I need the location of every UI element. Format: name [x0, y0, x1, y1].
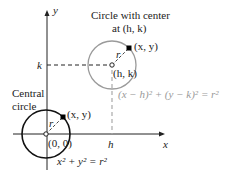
- y-axis-label: y: [53, 4, 58, 16]
- central-point-label: (x, y): [67, 108, 91, 120]
- shifted-radius: [112, 48, 129, 65]
- circle-diagram: y x k h Circle with center at (h, k) (x,…: [0, 0, 228, 178]
- shifted-title-line1: Circle with center: [91, 9, 170, 21]
- shifted-point-marker: [127, 46, 132, 51]
- h-tick-label: h: [108, 138, 114, 150]
- central-label-line2: circle: [12, 100, 36, 112]
- central-point-marker: [61, 115, 66, 120]
- central-equation: x² + y² = r²: [57, 155, 107, 167]
- y-axis-arrow-icon: [45, 10, 50, 16]
- x-axis-label: x: [163, 138, 168, 150]
- shifted-radius-label: r: [116, 48, 120, 60]
- k-tick-label: k: [37, 59, 42, 71]
- shifted-point-label: (x, y): [134, 40, 158, 52]
- central-center-label: (0, 0): [48, 137, 72, 149]
- x-axis-arrow-icon: [159, 132, 165, 137]
- shifted-title-line2: at (h, k): [112, 22, 147, 34]
- central-center-marker: [44, 132, 48, 136]
- shifted-center-label: (h, k): [113, 67, 137, 79]
- central-radius-label: r: [49, 117, 53, 129]
- central-label-line1: Central: [12, 87, 44, 99]
- shifted-equation: (x − h)² + (y − k)² = r²: [118, 88, 219, 100]
